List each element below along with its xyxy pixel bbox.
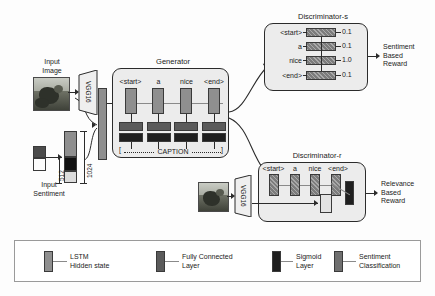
- discriminator-r-title: Discriminator-r: [262, 152, 372, 161]
- arrow-into-concat-head: [92, 122, 96, 128]
- generator-sigmoid-cell-3: [202, 133, 226, 142]
- discriminator-s-token-0: <start>: [266, 29, 302, 38]
- legend-swatch-fc: [156, 251, 165, 272]
- generator-lstm-cell-1: [152, 88, 164, 114]
- legend-leader-sigmoid: [281, 261, 293, 262]
- generator-link-0a: [131, 114, 132, 122]
- generator-lstm-cell-3: [208, 88, 220, 114]
- generator-token-2: nice: [173, 78, 200, 87]
- generator-lstm-cell-0: [125, 88, 137, 114]
- dim-512-label: 512: [58, 170, 65, 181]
- discriminator-s-tail-0: [336, 32, 341, 33]
- discriminator-r-recurrent-line: [272, 185, 339, 186]
- generator-token-0: <start>: [117, 78, 144, 87]
- legend-label-fc: Fully Connected Layer: [182, 253, 266, 270]
- discriminator-s-bar-3: [306, 71, 336, 80]
- generator-sigmoid-cell-1: [147, 133, 171, 142]
- dim-512-tick-top: [56, 157, 62, 158]
- caption-bracket-left: [: [119, 146, 121, 153]
- discriminator-s-score-2: 1.0: [342, 56, 360, 65]
- dim-512-tick-bottom: [56, 183, 62, 184]
- discriminator-s-score-3: 0.1: [342, 71, 360, 80]
- discriminator-r-output-head: [374, 190, 378, 196]
- discriminator-s-score-1: 0.1: [342, 42, 360, 51]
- vgg16-label-discriminator-r: VGG16: [240, 185, 247, 207]
- generator-fc-cell-1: [147, 122, 171, 131]
- discriminator-s-tail-3: [336, 75, 341, 76]
- discriminator-r-image-fc-box: [320, 194, 332, 213]
- feature-vector-sentiment-part: [64, 157, 77, 171]
- discriminator-s-tail-2: [336, 60, 341, 61]
- discriminator-s-token-1: a: [266, 43, 302, 52]
- generator-link-0b: [131, 142, 132, 149]
- generator-title: Generator: [118, 58, 228, 67]
- input-image-thumbnail: [33, 77, 70, 111]
- legend-leader-sentiment: [343, 261, 356, 262]
- generator-link-1a: [158, 114, 159, 122]
- dim-1024-line: [84, 131, 85, 183]
- sentiment-based-reward-label: Sentiment Based Reward: [383, 43, 435, 69]
- discriminator-s-lead-0: [303, 32, 307, 33]
- discriminator-r-token-0: <start>: [260, 165, 287, 174]
- discriminator-s-lead-3: [303, 75, 307, 76]
- caption-dotted-left: [124, 152, 154, 153]
- caption-label: CAPTION: [152, 148, 194, 157]
- input-sentiment-label: Input Sentiment: [18, 181, 80, 198]
- caption-dotted-right: [192, 152, 221, 153]
- discriminator-s-title: Discriminator-s: [268, 13, 378, 22]
- concat-feature-bar: [98, 88, 107, 160]
- generator-token-3: <end>: [200, 78, 228, 87]
- generator-lstm-cell-2: [180, 88, 192, 114]
- dim-1024-tick-top: [80, 131, 87, 132]
- generator-link-2a: [186, 114, 187, 122]
- discriminator-r-image-feature-line: [252, 203, 318, 204]
- feature-vector-padding-part: [64, 171, 77, 183]
- discriminator-r-token-3: <end>: [324, 165, 352, 174]
- discriminator-s-bar-0: [306, 28, 336, 37]
- sentiment-cell-top: [33, 146, 46, 158]
- discriminator-s-tail-1: [336, 46, 341, 47]
- legend-leader-lstm: [53, 261, 67, 262]
- dim-1024-tick-bottom: [80, 183, 87, 184]
- generator-link-3b: [214, 142, 215, 149]
- generator-fc-cell-2: [174, 122, 198, 131]
- discriminator-s-bar-link: [321, 37, 322, 71]
- input-image-label: Input Image: [28, 58, 76, 75]
- discriminator-s-token-3: <end>: [266, 72, 302, 81]
- generator-sigmoid-cell-2: [174, 133, 198, 142]
- legend-label-lstm: LSTM Hidden state: [70, 253, 150, 270]
- relevance-based-reward-label: Relevance Based Reward: [381, 180, 435, 206]
- discriminator-s-score-0: 0.1: [342, 28, 360, 37]
- figure-canvas: Input Image VGG16 Input Sentiment 512 10…: [0, 0, 435, 296]
- generator-token-1: a: [145, 78, 172, 87]
- legend-swatch-sentiment: [334, 251, 343, 272]
- dim-1024-label: 1024: [86, 164, 93, 178]
- sentiment-cell-bottom: [33, 158, 46, 171]
- discriminator-r-lstm-cell-1: [290, 174, 300, 196]
- generator-link-3a: [214, 114, 215, 122]
- discriminator-r-lstm-cell-2: [310, 174, 320, 196]
- discriminator-r-image-thumbnail: [198, 182, 229, 212]
- photo-foreground: [35, 98, 49, 108]
- photo-highlight: [54, 85, 63, 93]
- vgg16-encoder-discriminator-r: VGG16: [234, 175, 252, 217]
- generator-fc-cell-3: [202, 122, 226, 131]
- vgg16-label-image: VGG16: [85, 81, 92, 103]
- caption-bracket-right: ]: [221, 146, 223, 153]
- discriminator-r-image-feature-head: [314, 200, 318, 206]
- discriminator-s-lead-2: [303, 60, 307, 61]
- legend-swatch-sigmoid: [272, 251, 281, 272]
- legend-leader-fc: [165, 261, 179, 262]
- photo-r-highlight: [216, 189, 224, 196]
- discriminator-s-lead-1: [303, 46, 307, 47]
- legend-swatch-lstm: [44, 251, 53, 272]
- generator-fc-cell-0: [119, 122, 143, 131]
- generator-sigmoid-cell-0: [119, 133, 143, 142]
- discriminator-r-lstm-cell-0: [269, 174, 279, 196]
- legend-label-sentiment: Sentiment Classification: [359, 253, 429, 270]
- discriminator-s-output-head: [376, 53, 380, 59]
- discriminator-s-token-2: nice: [266, 57, 302, 66]
- feature-vector-image-part: [64, 131, 77, 157]
- vgg16-encoder-image: VGG16: [78, 70, 98, 115]
